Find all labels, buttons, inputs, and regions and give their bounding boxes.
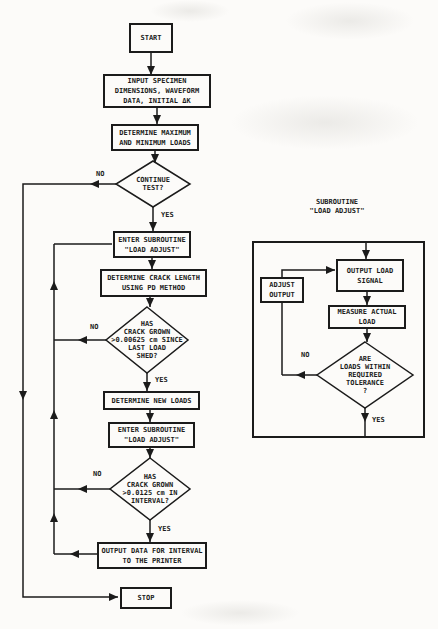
arrowhead-right (326, 266, 335, 274)
interval-yes-label: YES (158, 525, 171, 533)
crack-grown-shed-label: HAS CRACK GROWN >0.00625 cm SINCE LAST L… (97, 320, 197, 360)
arrowhead-down (146, 413, 154, 422)
arrowhead-left (70, 550, 79, 558)
adjust-output-node: ADJUST OUTPUT (260, 277, 304, 303)
arrowhead-down (361, 413, 369, 422)
arrowhead-up (50, 281, 58, 290)
arrowhead-down (362, 250, 370, 259)
continue-test-label: CONTINUE TEST? (113, 172, 193, 196)
arrowhead-up (50, 513, 58, 522)
shed-no-label: NO (90, 323, 98, 331)
enter-subroutine-1-node: ENTER SUBROUTINE "LOAD ADJUST" (113, 231, 191, 258)
input-specimen-node: INPUT SPECIMEN DIMENSIONS, WAVEFORM DATA… (103, 74, 211, 108)
arrowhead-left (90, 180, 99, 188)
tolerance-label: ARE LOADS WITHIN REQUIRED TOLERANCE ? (315, 355, 415, 395)
shed-yes-label: YES (155, 376, 168, 384)
continue-yes-label: YES (161, 211, 174, 219)
determine-crack-length-node: DETERMINE CRACK LENGTH USING PD METHOD (100, 269, 207, 297)
arrowhead-left (78, 336, 87, 344)
arrowhead-left (296, 371, 305, 379)
arrowhead-left (78, 485, 87, 493)
enter-subroutine-2-node: ENTER SUBROUTINE "LOAD ADJUST" (108, 422, 195, 448)
arrowhead-down (149, 222, 157, 231)
arrowhead-down (363, 333, 371, 342)
crack-grown-interval-label: HAS CRACK GROWN >0.0125 cm IN INTERVAL? (100, 473, 200, 505)
arrowhead-down (148, 260, 156, 269)
arrowhead-right (109, 593, 118, 601)
arrowhead-down (143, 382, 151, 391)
arrowhead-down (363, 296, 371, 305)
continue-no-label: NO (96, 170, 104, 178)
arrowhead-down (146, 449, 154, 458)
arrowhead-up (50, 410, 58, 419)
arrowhead-down (146, 533, 154, 542)
arrowhead-down (153, 115, 161, 124)
determine-max-min-loads-node: DETERMINE MAXIMUM AND MINIMUM LOADS (111, 124, 199, 151)
flowchart-page: START INPUT SPECIMEN DIMENSIONS, WAVEFOR… (0, 0, 438, 629)
tolerance-no-label: NO (301, 351, 309, 359)
start-node: START (129, 23, 173, 53)
output-load-signal-node: OUTPUT LOAD SIGNAL (336, 259, 404, 292)
stop-node: STOP (120, 587, 172, 609)
output-data-node: OUTPUT DATA FOR INTERVAL TO THE PRINTER (97, 542, 207, 569)
arrowhead-down (19, 391, 27, 400)
line-tolerance-no (282, 303, 317, 375)
measure-actual-load-node: MEASURE ACTUAL LOAD (328, 305, 406, 329)
determine-new-loads-node: DETERMINE NEW LOADS (103, 391, 200, 410)
subroutine-title: SUBROUTINE "LOAD ADJUST" (284, 198, 390, 216)
arrowhead-down (146, 298, 154, 307)
tolerance-yes-label: YES (372, 416, 385, 424)
interval-no-label: NO (93, 470, 101, 478)
